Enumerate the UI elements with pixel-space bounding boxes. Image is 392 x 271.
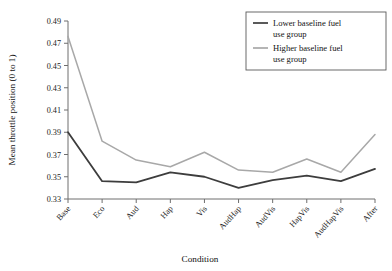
y-tick-label: 0.47 (47, 39, 61, 48)
legend-label-line1: Lower baseline fuel (273, 18, 342, 28)
legend-label-line1: Higher baseline fuel (273, 43, 343, 53)
x-tick-label: Vis (195, 204, 209, 218)
y-axis-title-group: Mean throttle position (0 to 1) (7, 55, 17, 166)
x-tick-label: Aud (124, 204, 141, 221)
y-tick-label: 0.33 (47, 195, 61, 204)
chart-legend: Lower baseline fueluse groupHigher basel… (246, 12, 386, 70)
x-axis-title: Condition (182, 254, 219, 264)
y-tick-label: 0.41 (47, 106, 61, 115)
legend-label-line2: use group (273, 29, 307, 39)
x-axis-labels: BaseEcoAudHapVisAudHapAudVisHapVisAudHap… (55, 204, 380, 240)
y-axis-ticks: 0.330.350.370.390.410.430.450.470.49 (47, 17, 68, 204)
x-axis-ticks (68, 199, 375, 203)
y-tick-label: 0.45 (47, 62, 61, 71)
y-tick-label: 0.37 (47, 151, 61, 160)
x-tick-label: AudVis (253, 204, 277, 229)
x-tick-label: Eco (91, 204, 106, 220)
y-tick-label: 0.35 (47, 173, 61, 182)
x-tick-label: HapVis (288, 204, 311, 229)
chart-canvas: Mean throttle position (0 to 1) 0.330.35… (0, 0, 392, 271)
x-tick-label: Hap (159, 204, 175, 220)
x-tick-label: After (361, 204, 380, 223)
y-axis-title: Mean throttle position (0 to 1) (7, 55, 17, 166)
series-line-lower-baseline (68, 132, 375, 188)
x-tick-label: AudHap (217, 204, 243, 231)
x-tick-label: AudHapVis (312, 204, 345, 239)
y-tick-label: 0.39 (47, 128, 61, 137)
line-chart: Mean throttle position (0 to 1) 0.330.35… (0, 0, 392, 271)
y-tick-label: 0.49 (47, 17, 61, 26)
legend-label-line2: use group (273, 54, 307, 64)
x-tick-label: Base (55, 204, 73, 222)
y-tick-label: 0.43 (47, 84, 61, 93)
